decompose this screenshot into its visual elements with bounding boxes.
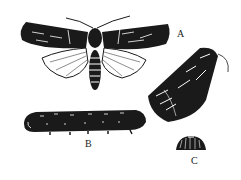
larva (24, 110, 146, 135)
moth-drawing (0, 0, 241, 180)
adult-moth-spread (21, 16, 170, 90)
label-c: C (191, 155, 198, 166)
label-b: B (85, 138, 92, 149)
adult-moth-resting (148, 48, 228, 122)
illustration: A B C (0, 0, 241, 180)
egg (176, 136, 206, 150)
label-a: A (177, 28, 184, 39)
